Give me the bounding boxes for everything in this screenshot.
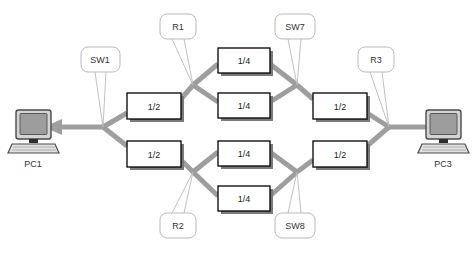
- pc3-keyboard: [418, 144, 469, 153]
- link-junction-r2-to-box-r2-bottom: [193, 172, 218, 196]
- callout-tail-sw7-b: [297, 39, 301, 85]
- callout-tail-sw8-b: [297, 172, 301, 213]
- link-junction-left-to-sw1-top: [103, 113, 127, 127]
- node-box-r1-top-label: 1/4: [238, 56, 251, 66]
- link-junction-sw8-to-box-sw8: [297, 160, 313, 172]
- callout-tail-r2-b: [184, 172, 193, 213]
- node-box-layer: 1/2 1/2 1/4 1/4 1/4: [127, 48, 370, 214]
- link-box-r2-top-to-junction-sw8: [270, 152, 297, 172]
- endpoint-pc1-label: PC1: [24, 159, 42, 169]
- pc3-monitor-screen: [430, 114, 457, 135]
- node-box-sw7-label: 1/2: [334, 102, 347, 112]
- endpoint-pc1[interactable]: PC1: [8, 110, 59, 169]
- callout-r3[interactable]: R3: [358, 47, 394, 72]
- callout-tail-r1-b: [184, 39, 193, 85]
- endpoint-pc3[interactable]: PC3: [418, 110, 469, 169]
- link-junction-r2-to-box-r2-top: [193, 152, 218, 172]
- link-box-sw7-to-junction-right: [367, 113, 389, 127]
- node-box-r1-bottom-label: 1/4: [238, 101, 251, 111]
- node-box-sw1-top-label: 1/2: [148, 102, 161, 112]
- pc1-monitor-screen: [20, 114, 47, 135]
- endpoint-pc3-label: PC3: [434, 159, 452, 169]
- pc3-monitor-stand: [439, 139, 448, 143]
- link-box-r1-top-to-junction-sw7: [270, 64, 297, 85]
- callout-r1-label: R1: [172, 22, 184, 32]
- callout-sw1[interactable]: SW1: [81, 47, 120, 72]
- node-box-r1-top[interactable]: 1/4: [218, 48, 270, 73]
- callout-sw7[interactable]: SW7: [275, 14, 315, 39]
- node-box-sw1-bottom[interactable]: 1/2: [127, 141, 181, 167]
- link-box-r1-bottom-to-junction-sw7: [270, 85, 297, 102]
- callout-sw7-label: SW7: [285, 22, 305, 32]
- node-box-r1-bottom[interactable]: 1/4: [218, 93, 270, 118]
- link-junction-sw7-to-box-sw7: [297, 85, 313, 99]
- link-box-sw8-to-junction-right: [367, 127, 389, 146]
- callout-sw8-label: SW8: [285, 221, 305, 231]
- network-diagram-canvas: 1/2 1/2 1/4 1/4 1/4: [0, 0, 476, 255]
- callout-sw1-label: SW1: [90, 55, 110, 65]
- node-box-sw7[interactable]: 1/2: [313, 93, 367, 119]
- node-box-r2-top-label: 1/4: [238, 149, 251, 159]
- link-junction-r1-to-box-r1-top: [193, 64, 218, 85]
- callout-tail-r2-a: [172, 172, 193, 213]
- callout-tail-sw1-a: [95, 72, 103, 127]
- callout-sw8[interactable]: SW8: [275, 213, 315, 238]
- node-box-sw1-top[interactable]: 1/2: [127, 93, 181, 119]
- node-box-sw1-bottom-label: 1/2: [148, 150, 161, 160]
- node-box-r2-top[interactable]: 1/4: [218, 141, 270, 166]
- node-box-sw8[interactable]: 1/2: [313, 141, 367, 167]
- callout-tail-r1-a: [172, 39, 193, 85]
- pc1-monitor-stand: [29, 139, 38, 143]
- node-box-r2-bottom-label: 1/4: [238, 194, 251, 204]
- callout-r1[interactable]: R1: [160, 14, 196, 39]
- link-layer: [60, 64, 428, 196]
- node-box-r2-bottom[interactable]: 1/4: [218, 186, 270, 211]
- link-junction-left-to-sw1-bottom: [103, 127, 127, 146]
- callout-r3-label: R3: [370, 55, 382, 65]
- callout-tail-sw1-b: [103, 72, 106, 127]
- link-junction-r1-to-box-r1-bottom: [193, 85, 218, 102]
- callout-tail-r3-b: [382, 72, 389, 127]
- pc1-keyboard: [8, 144, 59, 153]
- callout-r2[interactable]: R2: [160, 213, 196, 238]
- network-diagram-svg: 1/2 1/2 1/4 1/4 1/4: [0, 0, 476, 255]
- callout-r2-label: R2: [172, 221, 184, 231]
- node-box-sw8-label: 1/2: [334, 150, 347, 160]
